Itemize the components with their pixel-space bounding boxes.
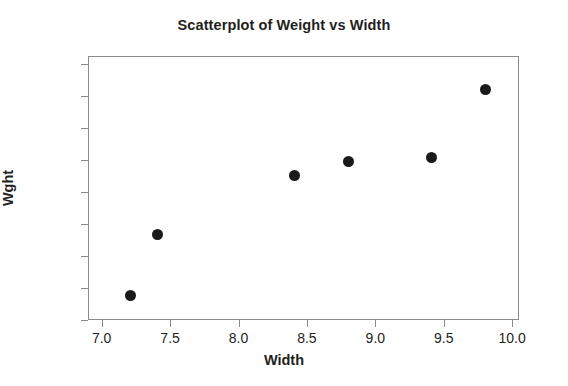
x-tick-mark	[239, 320, 240, 327]
x-axis-title: Width	[0, 352, 568, 368]
x-tick-label: 8.0	[229, 331, 248, 345]
x-tick-label: 10.0	[499, 331, 526, 345]
x-tick-mark	[170, 320, 171, 327]
x-tick-label: 7.5	[160, 331, 179, 345]
x-tick-mark	[444, 320, 445, 327]
x-tick-label: 8.5	[297, 331, 316, 345]
scatterplot-figure: Scatterplot of Weight vs Width 100120140…	[0, 0, 568, 386]
x-tick-label: 9.5	[434, 331, 453, 345]
x-tick-mark	[512, 320, 513, 327]
y-axis-title: Wght	[0, 170, 16, 206]
x-tick-label: 7.0	[92, 331, 111, 345]
x-tick-mark	[307, 320, 308, 327]
x-tick-mark	[375, 320, 376, 327]
x-axis: 7.07.58.08.59.09.510.0	[0, 0, 568, 386]
x-tick-label: 9.0	[366, 331, 385, 345]
x-tick-mark	[102, 320, 103, 327]
